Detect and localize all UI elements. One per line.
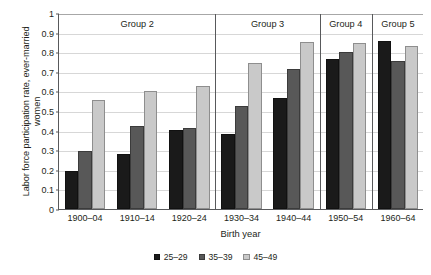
legend-swatch-icon	[199, 254, 206, 261]
x-axis-tick-label: 1960–64	[380, 213, 415, 223]
x-axis-tick-label: 1900–04	[68, 213, 103, 223]
x-axis-tick-label: 1940–44	[276, 213, 311, 223]
y-axis-tick-mark	[56, 210, 60, 211]
y-axis-title: Labor force participation rate, ever-mar…	[21, 11, 44, 211]
plot-area: 00.10.20.30.40.50.60.70.80.91 Group 2Gro…	[58, 14, 423, 210]
legend-item: 35–39	[199, 252, 233, 262]
x-axis-ticks: 1900–041910–141920–241930–341940–441950–…	[59, 14, 423, 209]
bar-chart: Labor force participation rate, ever-mar…	[0, 0, 431, 275]
legend-item: 25–29	[154, 252, 188, 262]
x-axis-tick-label: 1930–34	[224, 213, 259, 223]
x-axis-tick-label: 1920–24	[172, 213, 207, 223]
x-axis-tick-label: 1910–14	[120, 213, 155, 223]
legend-label: 45–49	[253, 252, 277, 262]
legend: 25–2935–3945–49	[0, 252, 431, 262]
x-axis-tick-label: 1950–54	[328, 213, 363, 223]
x-axis-title: Birth year	[58, 228, 423, 239]
legend-swatch-icon	[243, 254, 250, 261]
legend-label: 25–29	[164, 252, 188, 262]
legend-swatch-icon	[154, 254, 161, 261]
legend-label: 35–39	[209, 252, 233, 262]
legend-item: 45–49	[243, 252, 277, 262]
